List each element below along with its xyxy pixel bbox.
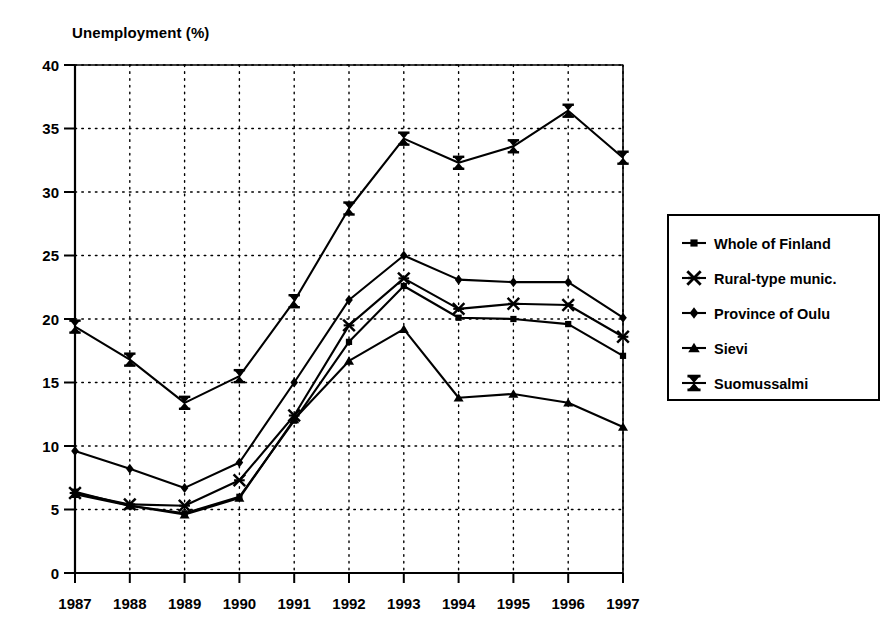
square-marker (510, 316, 516, 322)
marker-square-legend (690, 239, 697, 246)
marker-asterisk-pt (343, 320, 355, 332)
diamond-marker (690, 307, 699, 319)
legend-item-label: Suomussalmi (714, 376, 808, 392)
chart-canvas: 0510152025303540198719881989199019911992… (0, 0, 893, 643)
diamond-marker (455, 275, 463, 285)
x-tick-label: 1992 (332, 595, 365, 612)
x-tick-label: 1988 (113, 595, 146, 612)
legend-item-label: Province of Oulu (714, 306, 830, 322)
y-tick-label: 5 (51, 501, 59, 518)
x-tick-label: 1996 (552, 595, 585, 612)
marker-diamond-pt (126, 464, 134, 474)
y-tick-label: 30 (42, 184, 59, 201)
series-sievi (70, 325, 628, 519)
square-marker (690, 239, 697, 246)
y-tick-label: 10 (42, 438, 59, 455)
y-tick-label: 15 (42, 374, 59, 391)
diamond-marker (181, 483, 189, 493)
legend-item-province-of-oulu[interactable]: Province of Oulu (682, 306, 830, 322)
marker-asterisk-legend (687, 271, 700, 284)
square-marker (565, 321, 571, 327)
x-tick-label: 1987 (58, 595, 91, 612)
marker-triangle-pt (399, 325, 409, 333)
x-tick-label: 1990 (223, 595, 256, 612)
diamond-marker (126, 464, 134, 474)
square-marker (346, 339, 352, 345)
marker-diamond-pt (619, 313, 627, 323)
triangle-marker (344, 356, 354, 364)
diamond-marker (510, 277, 518, 287)
x-tick-label: 1994 (442, 595, 476, 612)
y-tick-label: 25 (42, 247, 59, 264)
marker-diamond-pt (71, 446, 79, 456)
x-tick-label: 1995 (497, 595, 530, 612)
star-body (70, 321, 80, 333)
x-tick-label: 1997 (606, 595, 639, 612)
marker-square-pt (346, 339, 352, 345)
square-marker (620, 353, 626, 359)
legend-item-whole-of-finland[interactable]: Whole of Finland (682, 236, 831, 252)
marker-diamond-pt (510, 277, 518, 287)
marker-square-pt (455, 315, 461, 321)
diamond-marker (564, 277, 572, 287)
x-tick-label: 1989 (168, 595, 201, 612)
y-tick-label: 0 (51, 565, 59, 582)
y-tick-label: 35 (42, 120, 59, 137)
legend-item-suomussalmi[interactable]: Suomussalmi (682, 376, 808, 392)
axes: 0510152025303540198719881989199019911992… (42, 57, 639, 613)
marker-triangle-pt (344, 356, 354, 364)
marker-asterisk-pt (562, 299, 574, 311)
marker-asterisk-pt (508, 298, 520, 310)
square-marker (455, 315, 461, 321)
triangle-marker (399, 325, 409, 333)
unemployment-line-chart: Unemployment (%) 05101520253035401987198… (0, 0, 893, 643)
marker-diamond-legend (690, 307, 699, 319)
gridlines (75, 65, 623, 573)
marker-asterisk-pt (234, 474, 246, 486)
x-tick-label: 1993 (387, 595, 420, 612)
diamond-marker (619, 313, 627, 323)
marker-square-pt (565, 321, 571, 327)
legend: Whole of FinlandRural-type munic.Provinc… (668, 215, 879, 400)
marker-diamond-pt (181, 483, 189, 493)
legend-item-label: Rural-type munic. (714, 271, 836, 287)
x-tick-label: 1991 (278, 595, 311, 612)
legend-item-label: Sievi (714, 341, 748, 357)
marker-square-pt (510, 316, 516, 322)
square-marker (401, 283, 407, 289)
marker-square-pt (620, 353, 626, 359)
marker-diamond-pt (455, 275, 463, 285)
y-tick-label: 40 (42, 57, 59, 74)
marker-star-pt (69, 321, 80, 333)
legend-item-rural-type-munic[interactable]: Rural-type munic. (682, 271, 836, 287)
legend-item-label: Whole of Finland (714, 236, 831, 252)
diamond-marker (71, 446, 79, 456)
chart-axis-title: Unemployment (%) (72, 24, 209, 41)
marker-diamond-pt (564, 277, 572, 287)
legend-item-sievi[interactable]: Sievi (682, 341, 748, 357)
marker-square-pt (401, 283, 407, 289)
y-tick-label: 20 (42, 311, 59, 328)
